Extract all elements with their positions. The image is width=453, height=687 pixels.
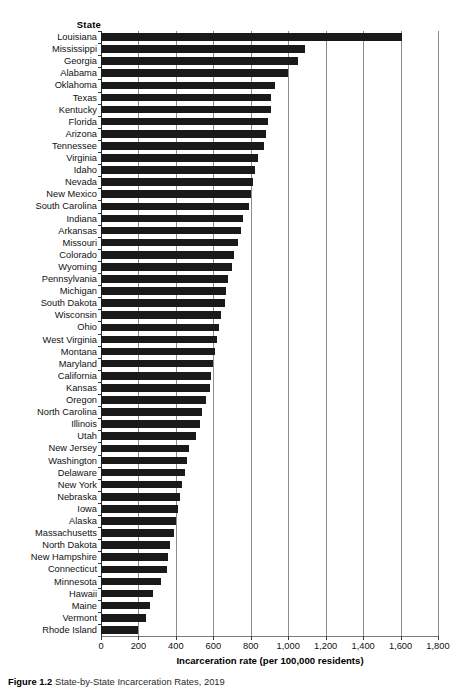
bar-row: New Hampshire xyxy=(101,551,438,563)
category-label: Illinois xyxy=(0,418,97,430)
y-axis-tick xyxy=(98,467,101,468)
bar xyxy=(101,166,255,174)
bar-row: Georgia xyxy=(101,55,438,67)
y-axis-tick xyxy=(98,612,101,613)
bar-row: Texas xyxy=(101,92,438,104)
category-label: South Carolina xyxy=(0,200,97,212)
category-label: Alabama xyxy=(0,67,97,79)
y-axis-tick xyxy=(98,92,101,93)
bar-row: Louisiana xyxy=(101,31,438,43)
bar xyxy=(101,481,182,489)
y-axis-tick xyxy=(98,563,101,564)
bar xyxy=(101,626,138,634)
bar-row: Virginia xyxy=(101,152,438,164)
bar-row: Delaware xyxy=(101,467,438,479)
category-label: Iowa xyxy=(0,503,97,515)
category-label: Massachusetts xyxy=(0,527,97,539)
bar xyxy=(101,336,217,344)
category-label: North Carolina xyxy=(0,406,97,418)
bar-row: Nevada xyxy=(101,176,438,188)
x-tick-mark-800 xyxy=(251,636,252,640)
bar-row: Arizona xyxy=(101,128,438,140)
category-label: Nebraska xyxy=(0,491,97,503)
category-label: Minnesota xyxy=(0,576,97,588)
y-axis-tick xyxy=(98,55,101,56)
bar xyxy=(101,372,211,380)
bar xyxy=(101,106,271,114)
bar-row: New Jersey xyxy=(101,442,438,454)
bar-row: Wisconsin xyxy=(101,309,438,321)
bar-row: Alabama xyxy=(101,67,438,79)
category-label: Montana xyxy=(0,346,97,358)
bar xyxy=(101,541,170,549)
bar xyxy=(101,239,238,247)
y-axis-tick xyxy=(98,334,101,335)
bar-row: Kentucky xyxy=(101,104,438,116)
category-label: Hawaii xyxy=(0,588,97,600)
category-label: Connecticut xyxy=(0,563,97,575)
bar-row: Illinois xyxy=(101,418,438,430)
y-axis-tick xyxy=(98,576,101,577)
bar xyxy=(101,227,241,235)
y-axis-tick xyxy=(98,225,101,226)
x-tick-mark-400 xyxy=(176,636,177,640)
bar-row: Kansas xyxy=(101,382,438,394)
state-column-header: State xyxy=(0,19,101,30)
y-axis-tick xyxy=(98,104,101,105)
bar-row: Indiana xyxy=(101,213,438,225)
bar-row: Maryland xyxy=(101,358,438,370)
bar-row: Mississippi xyxy=(101,43,438,55)
bar xyxy=(101,94,271,102)
plot-area: LouisianaMississippiGeorgiaAlabamaOklaho… xyxy=(101,31,438,636)
bar xyxy=(101,360,213,368)
bar xyxy=(101,311,221,319)
y-axis-tick xyxy=(98,370,101,371)
category-label: California xyxy=(0,370,97,382)
category-label: Florida xyxy=(0,116,97,128)
category-label: New Jersey xyxy=(0,442,97,454)
bar xyxy=(101,178,253,186)
y-axis-tick xyxy=(98,321,101,322)
bar xyxy=(101,408,202,416)
bar xyxy=(101,190,251,198)
bar-row: North Carolina xyxy=(101,406,438,418)
x-tick-mark-0 xyxy=(101,636,102,640)
bar-row: California xyxy=(101,370,438,382)
category-label: Ohio xyxy=(0,321,97,333)
bar-row: New Mexico xyxy=(101,188,438,200)
bar-row: Alaska xyxy=(101,515,438,527)
category-label: Vermont xyxy=(0,612,97,624)
category-label: Nevada xyxy=(0,176,97,188)
category-label: Kentucky xyxy=(0,104,97,116)
x-tick-mark-200 xyxy=(138,636,139,640)
y-axis-tick xyxy=(98,527,101,528)
bar-row: Rhode Island xyxy=(101,624,438,636)
bar xyxy=(101,590,153,598)
bar-row: Connecticut xyxy=(101,563,438,575)
bar xyxy=(101,203,249,211)
bar-row: Nebraska xyxy=(101,491,438,503)
y-axis-tick xyxy=(98,600,101,601)
y-axis-tick xyxy=(98,43,101,44)
y-axis-tick xyxy=(98,116,101,117)
bar-row: Washington xyxy=(101,455,438,467)
bar xyxy=(101,469,185,477)
bar-row: Missouri xyxy=(101,237,438,249)
y-axis-tick xyxy=(98,455,101,456)
x-tick-label: 0 xyxy=(81,641,121,651)
bar xyxy=(101,263,232,271)
bar-row: Oklahoma xyxy=(101,79,438,91)
bar-row: Colorado xyxy=(101,249,438,261)
y-axis-tick xyxy=(98,358,101,359)
category-label: Arizona xyxy=(0,128,97,140)
bar xyxy=(101,251,234,259)
x-tick-label: 1,000 xyxy=(268,641,308,651)
bar xyxy=(101,45,305,53)
bar xyxy=(101,432,196,440)
y-axis-tick xyxy=(98,588,101,589)
y-axis-tick xyxy=(98,152,101,153)
y-axis-tick xyxy=(98,237,101,238)
y-axis-tick xyxy=(98,213,101,214)
bar-row: Iowa xyxy=(101,503,438,515)
y-axis-tick xyxy=(98,442,101,443)
